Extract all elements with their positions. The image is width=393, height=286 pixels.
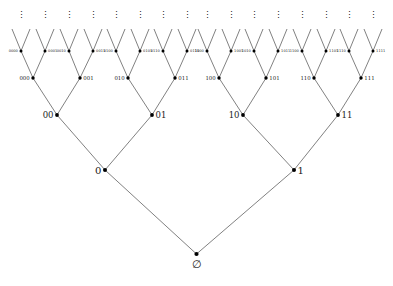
continuation-ellipsis-12: ⋮ <box>298 10 307 20</box>
continuation-ellipsis-15: ⋮ <box>369 10 378 20</box>
node-dot-1000 <box>206 50 209 53</box>
node-label-110: 110 <box>300 75 311 81</box>
node-dot-1011 <box>277 50 280 53</box>
continuation-ellipsis-0: ⋮ <box>17 10 26 20</box>
node-label-111: 111 <box>364 75 374 81</box>
node-dot-0100 <box>115 50 118 53</box>
node-label-01: 01 <box>156 110 167 120</box>
node-dot-010 <box>126 76 129 79</box>
node-label-1111: 1111 <box>376 49 385 53</box>
continuation-ellipsis-11: ⋮ <box>274 10 283 20</box>
node-label-1: 1 <box>298 165 304 176</box>
node-dot-1010 <box>253 50 256 53</box>
node-dot-000 <box>31 76 34 79</box>
node-label-101: 101 <box>269 75 279 81</box>
continuation-ellipsis-6: ⋮ <box>159 10 168 20</box>
node-label-001: 001 <box>83 75 93 81</box>
continuation-ellipsis-13: ⋮ <box>322 10 331 20</box>
continuation-ellipsis-7: ⋮ <box>183 10 192 20</box>
node-dot-1110 <box>348 50 351 53</box>
node-dot-0001 <box>44 50 47 53</box>
node-dot-0 <box>103 168 107 172</box>
node-dot-10 <box>241 113 245 117</box>
node-dot-101 <box>264 76 267 79</box>
node-label-100: 100 <box>205 75 216 81</box>
node-dot-1 <box>292 168 296 172</box>
node-label-1010: 1010 <box>242 49 252 53</box>
node-label-0: 0 <box>95 165 101 176</box>
node-label-11: 11 <box>342 110 353 120</box>
node-dot-111 <box>359 76 362 79</box>
continuation-ellipsis-9: ⋮ <box>227 10 236 20</box>
continuation-ellipsis-14: ⋮ <box>345 10 354 20</box>
continuation-ellipsis-5: ⋮ <box>136 10 145 20</box>
node-dot-0110 <box>162 50 165 53</box>
node-label-1110: 1110 <box>337 49 347 53</box>
node-label-0010: 0010 <box>57 49 67 53</box>
node-dot-01 <box>150 113 154 117</box>
node-label-010: 010 <box>114 75 125 81</box>
continuation-ellipsis-3: ⋮ <box>89 10 98 20</box>
node-label-000: 000 <box>19 75 30 81</box>
node-label-0110: 0110 <box>151 49 161 53</box>
node-dot-0111 <box>186 50 189 53</box>
continuation-ellipsis-4: ⋮ <box>112 10 121 20</box>
node-label-0000: 0000 <box>9 49 19 53</box>
node-dot-00 <box>55 113 59 117</box>
node-label-10: 10 <box>229 110 240 120</box>
node-label-root: ∅ <box>192 258 202 271</box>
node-dot-0010 <box>68 50 71 53</box>
continuation-ellipsis-8: ⋮ <box>203 10 212 20</box>
node-label-0100: 0100 <box>104 49 114 53</box>
node-dot-0011 <box>92 50 95 53</box>
node-dot-11 <box>336 113 340 117</box>
continuation-ellipsis-1: ⋮ <box>41 10 50 20</box>
node-label-1100: 1100 <box>290 49 300 53</box>
node-label-011: 011 <box>178 75 188 81</box>
continuation-ellipsis-2: ⋮ <box>65 10 74 20</box>
node-dot-1101 <box>325 50 328 53</box>
node-dot-0101 <box>139 50 142 53</box>
node-dot-1111 <box>372 50 375 53</box>
node-dot-110 <box>312 76 315 79</box>
binary-tree-figure: ∅010001101100000101001110010111011100000… <box>0 0 393 286</box>
node-label-00: 00 <box>43 110 54 120</box>
figure-background <box>0 0 393 286</box>
node-dot-1100 <box>301 50 304 53</box>
node-dot-0000 <box>20 50 23 53</box>
node-dot-011 <box>173 76 176 79</box>
continuation-ellipsis-10: ⋮ <box>250 10 259 20</box>
node-label-1000: 1000 <box>195 49 205 53</box>
node-dot-100 <box>217 76 220 79</box>
node-dot-1001 <box>230 50 233 53</box>
node-dot-root <box>194 252 198 256</box>
node-dot-001 <box>78 76 81 79</box>
